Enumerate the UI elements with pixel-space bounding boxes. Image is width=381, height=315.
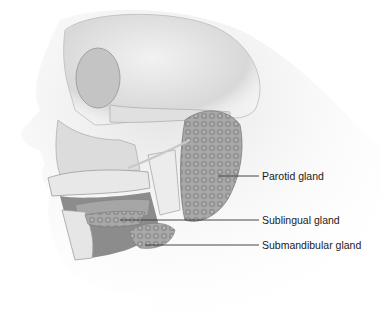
anatomy-illustration [0, 0, 381, 315]
sublingual-gland-shape [85, 211, 145, 227]
label-sublingual-gland: Sublingual gland [262, 214, 340, 226]
label-parotid-gland: Parotid gland [262, 170, 324, 182]
eye-orbit [76, 48, 120, 108]
salivary-gland-diagram: Parotid gland Sublingual gland Submandib… [0, 0, 381, 315]
label-submandibular-gland: Submandibular gland [262, 239, 361, 251]
